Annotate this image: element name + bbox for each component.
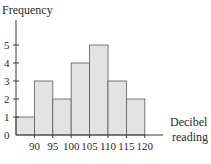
histogram-bar xyxy=(16,117,34,135)
y-axis-label: Frequency xyxy=(2,3,53,17)
x-tick-label: 100 xyxy=(63,140,80,152)
x-axis-label-line1: Decibel xyxy=(170,115,208,129)
x-tick-label: 115 xyxy=(118,140,135,152)
histogram-chart: 012345 9095100105110115120 Frequency Dec… xyxy=(0,0,211,164)
x-tick-label: 90 xyxy=(29,140,41,152)
histogram-bar xyxy=(90,45,108,135)
x-tick-label: 110 xyxy=(100,140,117,152)
y-tick-label: 5 xyxy=(4,39,10,51)
y-tick-label: 4 xyxy=(4,57,10,69)
x-axis-label-line2: reading xyxy=(172,130,208,144)
bars-group xyxy=(16,45,145,135)
x-tick-label: 105 xyxy=(81,140,98,152)
y-tick-label: 3 xyxy=(4,75,10,87)
x-tick-label: 120 xyxy=(137,140,154,152)
y-tick-label: 0 xyxy=(4,129,10,141)
histogram-bar xyxy=(34,81,52,135)
y-tick-label: 2 xyxy=(4,93,10,105)
x-tick-label: 95 xyxy=(47,140,59,152)
histogram-bar xyxy=(71,63,89,135)
y-tick-label: 1 xyxy=(4,111,10,123)
x-ticks-group: 9095100105110115120 xyxy=(29,135,154,152)
histogram-bar xyxy=(126,99,144,135)
histogram-bar xyxy=(108,81,126,135)
histogram-bar xyxy=(53,99,71,135)
